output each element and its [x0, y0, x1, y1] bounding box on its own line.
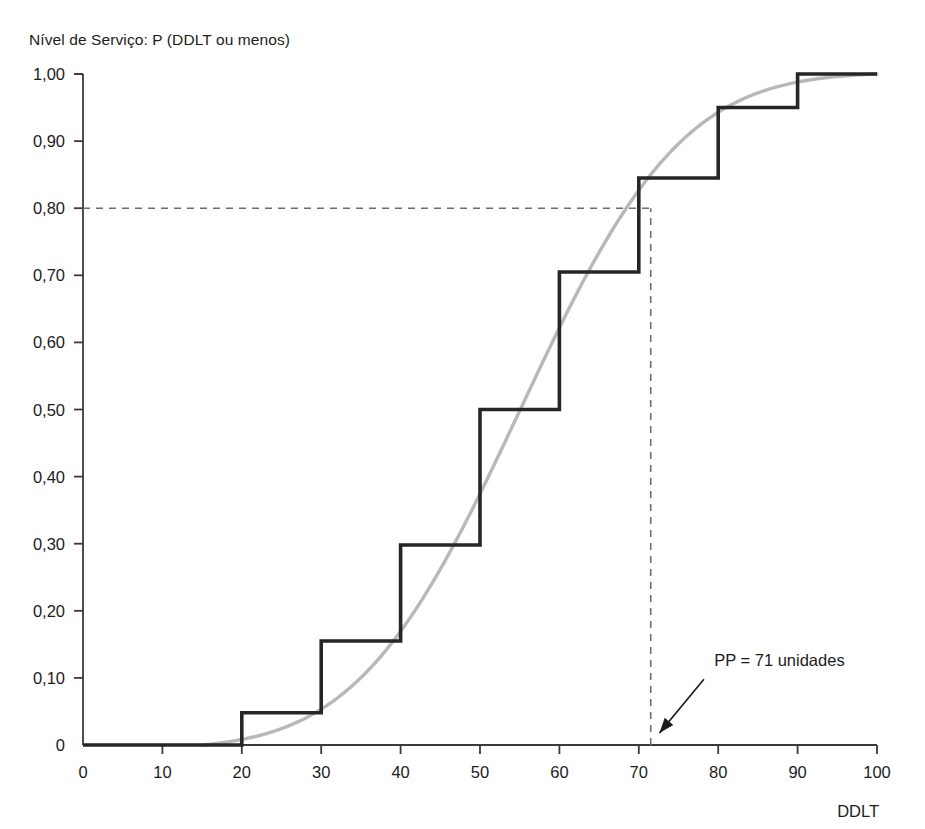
- x-tick-label-3: 30: [312, 763, 330, 781]
- x-tick-label-2: 20: [233, 763, 251, 781]
- y-tick-label-10: 1,00: [33, 65, 65, 83]
- x-tick-label-1: 10: [153, 763, 171, 781]
- figure-container: Nível de Serviço: P (DDLT ou menos) 00,1…: [0, 0, 925, 829]
- y-tick-label-1: 0,10: [33, 669, 65, 687]
- y-tick-label-7: 0,70: [33, 266, 65, 284]
- x-tick-label-9: 90: [788, 763, 806, 781]
- x-tick-label-10: 100: [863, 763, 891, 781]
- x-tick-label-5: 50: [471, 763, 489, 781]
- y-tick-label-0: 0: [56, 736, 65, 754]
- x-tick-label-6: 60: [550, 763, 568, 781]
- x-axis-title: DDLT: [837, 802, 879, 820]
- service-level-cdf-chart: 00,100,200,300,400,500,600,700,800,901,0…: [0, 0, 925, 829]
- y-tick-label-3: 0,30: [33, 535, 65, 553]
- y-tick-label-4: 0,40: [33, 468, 65, 486]
- x-tick-label-8: 80: [709, 763, 727, 781]
- x-tick-label-0: 0: [78, 763, 87, 781]
- y-tick-label-8: 0,80: [33, 199, 65, 217]
- x-tick-label-4: 40: [391, 763, 409, 781]
- annotation-label: PP = 71 unidades: [714, 651, 844, 669]
- x-tick-label-7: 70: [630, 763, 648, 781]
- y-tick-label-2: 0,20: [33, 602, 65, 620]
- empirical-cdf-step: [83, 74, 877, 745]
- annotation-arrow-head: [659, 718, 673, 733]
- y-tick-label-6: 0,60: [33, 333, 65, 351]
- y-tick-label-5: 0,50: [33, 401, 65, 419]
- y-tick-label-9: 0,90: [33, 132, 65, 150]
